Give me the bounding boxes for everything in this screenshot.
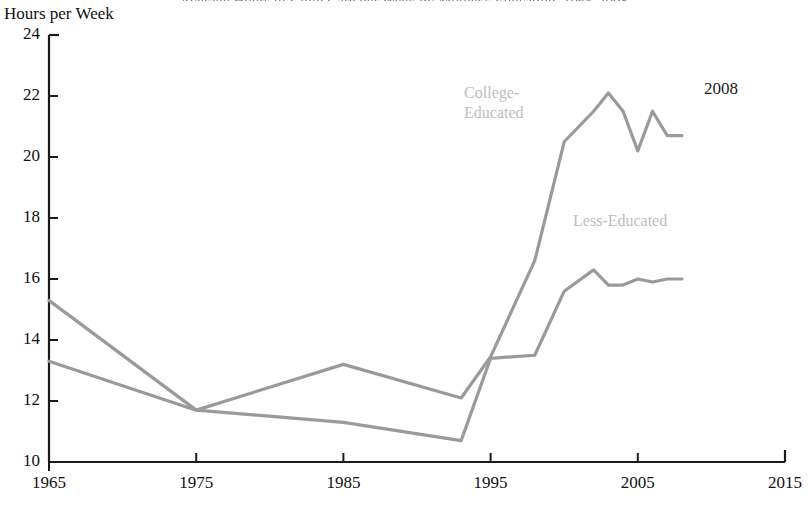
x-tick-label: 2005 (603, 473, 673, 493)
axis-ticks (49, 96, 638, 471)
x-tick-label: 2015 (750, 473, 808, 493)
y-tick-label: 10 (6, 451, 40, 471)
y-tick-label: 18 (6, 207, 40, 227)
x-tick-label: 1985 (308, 473, 378, 493)
series-label-less-educated: Less-Educated (573, 211, 667, 231)
y-tick-label: 16 (6, 268, 40, 288)
y-tick-label: 20 (6, 146, 40, 166)
y-tick-label: 22 (6, 85, 40, 105)
y-tick-label: 24 (6, 24, 40, 44)
chart-figure: Average Hours of Child Care per Week by … (0, 0, 808, 505)
y-tick-label: 12 (6, 390, 40, 410)
series-label-college-educated: College-Educated (464, 83, 524, 124)
y-tick-label: 14 (6, 329, 40, 349)
x-tick-label: 1995 (456, 473, 526, 493)
year-annotation: 2008 (704, 79, 738, 99)
x-tick-label: 1965 (14, 473, 84, 493)
data-series-lines (49, 93, 682, 441)
plot-area (0, 0, 808, 505)
x-tick-label: 1975 (161, 473, 231, 493)
